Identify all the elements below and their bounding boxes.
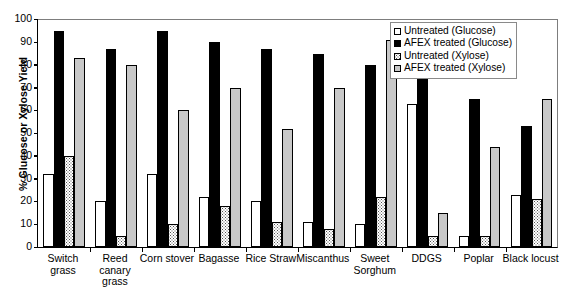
legend-label: Untreated (Xylose) [404,50,489,62]
bar [532,199,542,247]
bar [43,174,53,247]
x-tick [402,247,403,252]
bar [313,54,323,247]
y-tick-label: 0 [26,240,32,253]
bar-group [142,20,194,247]
legend-swatch-icon [394,65,401,72]
bar [324,229,334,247]
legend-label: Untreated (Glucose) [404,25,496,37]
x-tick [194,247,195,252]
bar [168,224,178,247]
legend-item: AFEX treated (Xylose) [394,62,512,74]
bar [334,88,344,247]
chart-legend: Untreated (Glucose)AFEX treated (Glucose… [390,22,517,79]
legend-label: AFEX treated (Xylose) [404,62,505,74]
bar [106,49,116,247]
bar [272,222,282,247]
bar-group [38,20,90,247]
bar [417,54,427,247]
bar [209,42,219,247]
y-tick-label: 60 [20,103,32,116]
bar [54,31,64,247]
bar [64,156,74,247]
bar-group [194,20,246,247]
bar [251,201,261,247]
x-tick [350,247,351,252]
bar [116,236,126,247]
x-axis-label: Black locust [499,253,563,265]
bar-group [298,20,350,247]
y-tick-label: 30 [20,172,32,185]
bar [521,126,531,247]
bar [74,58,84,247]
chart-figure: % Glucose or Xylose Yield 01020304050607… [0,0,576,302]
x-tick [454,247,455,252]
bar [126,65,136,247]
legend-item: Untreated (Glucose) [394,25,512,37]
bar [438,213,448,247]
legend-swatch-icon [394,40,401,47]
bar [480,236,490,247]
bar [220,206,230,247]
legend-swatch-icon [394,28,401,35]
x-tick [90,247,91,252]
x-axis-label-line: grass [83,276,147,288]
bar [303,222,313,247]
bar [147,174,157,247]
bar [428,236,438,247]
y-tick-label: 70 [20,81,32,94]
legend-item: AFEX treated (Glucose) [394,37,512,49]
x-axis-label-line: Black locust [499,253,563,265]
bar [261,49,271,247]
y-tick-label: 50 [20,126,32,139]
y-tick-label: 40 [20,149,32,162]
bar [157,31,167,247]
bar [178,110,188,247]
bar [376,197,386,247]
bar [542,99,552,247]
bar [490,147,500,247]
legend-label: AFEX treated (Glucose) [404,37,512,49]
bar [469,99,479,247]
bar [355,224,365,247]
bar [365,65,375,247]
y-tick-label: 90 [20,35,32,48]
y-tick-label: 100 [14,12,32,25]
bar [511,195,521,247]
bar [230,88,240,247]
bar [459,236,469,247]
y-tick-label: 20 [20,194,32,207]
y-tick-label: 10 [20,217,32,230]
legend-item: Untreated (Xylose) [394,50,512,62]
bar-group [90,20,142,247]
y-tick-label: 80 [20,58,32,71]
x-axis-label-line: Sorghum [343,265,407,277]
bar [407,104,417,247]
bar [95,201,105,247]
bar [282,129,292,247]
bar-group [246,20,298,247]
bar [199,197,209,247]
legend-swatch-icon [394,53,401,60]
